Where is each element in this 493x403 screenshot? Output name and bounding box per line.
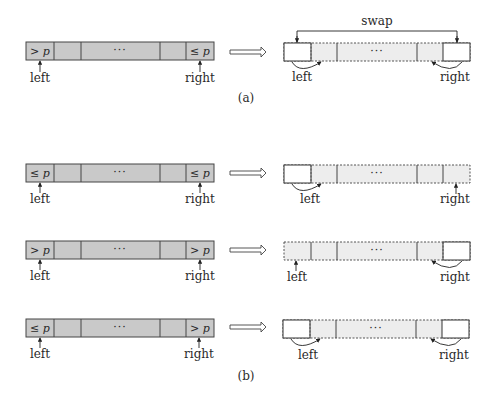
array-after-b1: ··· left right [284,165,470,206]
left-label: left [30,71,50,85]
left-label: left [30,347,50,361]
cell-ellipsis: ··· [113,243,127,256]
cell-left-value: > p [30,45,50,58]
cell-ellipsis: ··· [370,167,384,180]
cell-ellipsis: ··· [113,44,127,57]
cell-finalized-right [443,242,470,260]
left-advance-arrow-icon [292,184,321,191]
cell-left-value: > p [30,244,50,257]
quicksort-partition-diagram: > p ··· ≤ p left right ··· swap [0,0,493,403]
left-label: left [287,270,307,284]
transition-arrow-icon [230,47,266,57]
left-label: left [292,70,312,84]
array-before-b2: > p ··· > p left right [26,241,215,283]
transition-arrow-icon [230,322,266,332]
right-label: right [440,270,470,284]
cell-right-value: ≤ p [190,167,210,180]
part-b-row-1: ≤ p ··· ≤ p left right ··· left right [26,164,470,206]
right-label: right [185,71,215,85]
left-label: left [30,269,50,283]
cell-finalized-right [442,320,469,338]
array-before-a: > p ··· ≤ p left right [26,42,215,85]
cell-right-value: > p [190,244,210,257]
cell-left-value: ≤ p [30,322,50,335]
left-label: left [298,348,318,362]
left-advance-arrow-icon [291,339,320,346]
array-before-b1: ≤ p ··· ≤ p left right [26,164,215,206]
caption-b: (b) [237,369,254,383]
part-a: > p ··· ≤ p left right ··· swap [26,14,470,105]
array-after-a: ··· swap left right [284,14,470,84]
cell-finalized-left [283,320,310,338]
caption-a: (a) [238,91,255,105]
cell-right-value: ≤ p [190,45,210,58]
cell-ellipsis: ··· [113,321,127,334]
array-after-b3: ··· left right [283,320,469,362]
cell-right-value: > p [190,322,210,335]
cell-finalized-left [284,43,311,61]
right-label: right [184,347,214,361]
array-before-b3: ≤ p ··· > p left right [26,319,214,361]
right-label: right [440,192,470,206]
transition-arrow-icon [230,245,266,255]
right-label: right [185,192,215,206]
swap-label: swap [361,14,393,28]
cell-left-value: ≤ p [30,167,50,180]
right-label: right [440,70,470,84]
right-label: right [185,269,215,283]
right-advance-arrow-icon [432,261,462,268]
left-label: left [300,192,320,206]
part-b-row-2: > p ··· > p left right ··· left right [26,241,470,284]
left-advance-arrow-icon [292,62,321,69]
cell-ellipsis: ··· [370,244,384,257]
cell-finalized-left [284,165,311,183]
array-after-b2: ··· left right [284,242,470,284]
transition-arrow-icon [230,168,266,178]
cell-ellipsis: ··· [369,322,383,335]
cell-ellipsis: ··· [113,166,127,179]
left-label: left [30,192,50,206]
swap-bracket [297,31,457,43]
right-advance-arrow-icon [431,339,461,346]
part-b-row-3: ≤ p ··· > p left right ··· left right (b… [26,319,469,383]
cell-ellipsis: ··· [370,45,384,58]
right-advance-arrow-icon [432,62,462,69]
right-label: right [439,348,469,362]
cell-finalized-right [443,43,470,61]
